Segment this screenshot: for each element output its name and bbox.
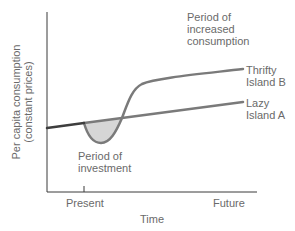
legend-lazy-island-a: Lazy Island A xyxy=(246,97,285,121)
annotation-increased-consumption: Period of increased consumption xyxy=(187,11,249,47)
x-tick-future: Future xyxy=(213,197,245,209)
x-tick-present: Present xyxy=(66,197,104,209)
series-lazy-island-a-line xyxy=(84,102,243,123)
y-axis-label: Per capita consumption (constant prices) xyxy=(10,45,34,160)
x-axis-label: Time xyxy=(140,213,164,225)
legend-thrifty-island-b: Thrifty Island B xyxy=(246,64,286,88)
annotation-period-of-investment: Period of investment xyxy=(78,150,131,174)
shared-history-line xyxy=(47,123,84,128)
